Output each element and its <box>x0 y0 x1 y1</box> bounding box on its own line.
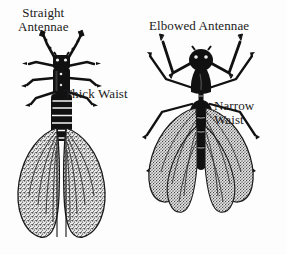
label-thick-waist: Thick Waist <box>64 87 128 101</box>
label-elbowed-antennae-line1: Elbowed Antennae <box>149 19 249 33</box>
label-thick-waist-line1: Thick Waist <box>64 87 128 101</box>
termite-head <box>53 52 70 69</box>
ant-thorax <box>191 69 211 94</box>
diagram-canvas: Straight Antennae Thick Waist Elbowed An… <box>0 0 287 255</box>
label-straight-antennae-line1: Straight <box>18 6 69 20</box>
label-straight-antennae: Straight Antennae <box>18 6 69 34</box>
ant-narrow-waist <box>199 92 204 101</box>
termite-wings <box>18 128 105 237</box>
termite-figure <box>18 30 105 237</box>
label-elbowed-antennae: Elbowed Antennae <box>149 19 249 33</box>
label-narrow-waist-line1: Narrow <box>214 99 254 113</box>
insect-illustration <box>0 0 287 255</box>
label-narrow-waist-line2: Waist <box>214 113 254 127</box>
label-straight-antennae-line2: Antennae <box>18 20 69 34</box>
label-narrow-waist: Narrow Waist <box>214 99 254 127</box>
